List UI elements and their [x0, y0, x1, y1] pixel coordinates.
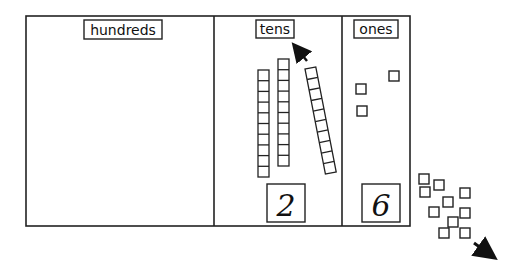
ones-header: ones [354, 20, 398, 38]
ones-digit-box: 6 [362, 184, 400, 223]
tens-label: tens [260, 21, 290, 37]
tens-digit: 2 [275, 188, 295, 223]
arrow-up-left-icon [298, 50, 307, 61]
ones-label: ones [359, 21, 392, 37]
arrow-down-right-icon [474, 243, 488, 253]
hundreds-header: hundreds [84, 20, 162, 39]
ten-rod [258, 70, 269, 177]
chart-frame [26, 16, 410, 226]
tens-digit-box: 2 [267, 184, 305, 223]
one-cube [356, 71, 399, 116]
place-value-chart: hundreds tens ones 2 6 [0, 0, 521, 272]
ones-digit: 6 [371, 188, 390, 223]
ten-rod [278, 59, 289, 166]
tens-header: tens [256, 20, 294, 38]
ten-rod [305, 67, 336, 174]
hundreds-label: hundreds [90, 22, 156, 38]
loose-cubes [419, 174, 470, 238]
